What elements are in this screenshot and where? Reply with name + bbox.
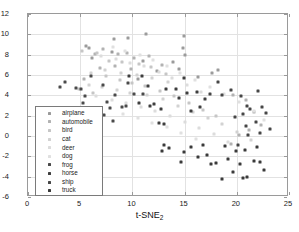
data-point-cat [129, 92, 132, 95]
legend-label: cat [62, 136, 70, 142]
data-point-deer [183, 120, 186, 123]
x-axis-title-subscript: 2 [160, 214, 164, 221]
legend-item-airplane[interactable]: airplane [36, 109, 102, 118]
data-point-truck [262, 168, 265, 171]
data-point-airplane [112, 38, 115, 41]
data-point-ship [217, 81, 220, 84]
data-point-truck [244, 149, 247, 152]
y-axis-tick [284, 34, 287, 35]
data-point-horse [157, 121, 160, 124]
legend-marker-icon [48, 163, 51, 166]
y-tick-label: -6 [0, 192, 9, 201]
data-point-dog [152, 58, 155, 61]
y-axis-tick [28, 197, 31, 198]
gridline-vertical [237, 14, 238, 195]
data-point-bird [137, 62, 140, 65]
gridline-horizontal [28, 34, 287, 35]
data-point-truck [197, 156, 200, 159]
legend-item-dog[interactable]: dog [36, 152, 102, 161]
y-tick-label: 8 [0, 49, 9, 58]
x-axis-title: t-SNE2 [0, 210, 299, 221]
y-tick-label: 12 [0, 9, 9, 18]
data-point-ship [236, 144, 239, 147]
data-point-automobile [237, 133, 240, 136]
data-point-frog [127, 82, 130, 85]
data-point-automobile [148, 54, 151, 57]
data-point-horse [140, 75, 143, 78]
data-point-deer [94, 95, 97, 98]
data-point-deer [212, 132, 215, 135]
legend-label: airplane [62, 110, 84, 116]
data-point-cat [166, 81, 169, 84]
y-axis-tick [284, 116, 287, 117]
y-tick-label: -4 [0, 171, 9, 180]
data-point-truck [238, 163, 241, 166]
gridline-horizontal [28, 55, 287, 56]
legend-item-ship[interactable]: ship [36, 178, 102, 187]
data-point-horse [128, 75, 131, 78]
data-point-ship [254, 120, 257, 123]
data-point-cat [87, 84, 90, 87]
data-point-ship [229, 89, 232, 92]
data-point-frog [75, 87, 78, 90]
data-point-airplane [197, 76, 200, 79]
data-point-airplane [144, 33, 147, 36]
legend-item-truck[interactable]: truck [36, 186, 102, 195]
data-point-ship [245, 124, 248, 127]
y-axis-tick [28, 95, 31, 96]
y-axis-tick [284, 95, 287, 96]
legend-item-automobile[interactable]: automobile [36, 118, 102, 127]
data-point-bird [164, 72, 167, 75]
data-point-cat [146, 94, 149, 97]
legend-item-bird[interactable]: bird [36, 126, 102, 135]
data-point-ship [233, 115, 236, 118]
y-tick-label: 6 [0, 70, 9, 79]
data-point-automobile [248, 128, 251, 131]
y-axis-tick [284, 136, 287, 137]
data-point-deer [185, 84, 188, 87]
data-point-frog [102, 84, 105, 87]
y-axis-tick [284, 156, 287, 157]
legend-label: truck [62, 187, 76, 193]
data-point-bird [81, 49, 84, 52]
data-point-frog [113, 94, 116, 97]
data-point-ship [242, 112, 245, 115]
data-point-truck [242, 176, 245, 179]
data-point-ship [208, 93, 211, 96]
data-point-truck [231, 170, 234, 173]
data-point-dog [252, 109, 255, 112]
data-point-ship [269, 127, 272, 130]
x-axis-tick [289, 192, 290, 195]
data-point-truck [209, 163, 212, 166]
data-point-frog [125, 104, 128, 107]
legend-item-deer[interactable]: deer [36, 143, 102, 152]
data-point-automobile [245, 99, 248, 102]
data-point-airplane [90, 56, 93, 59]
data-point-dog [136, 116, 139, 119]
legend-item-cat[interactable]: cat [36, 135, 102, 144]
x-axis-tick [237, 14, 238, 17]
data-point-frog [141, 93, 144, 96]
data-point-automobile [160, 63, 163, 66]
data-point-frog [80, 88, 83, 91]
data-point-cat [177, 104, 180, 107]
data-point-airplane [183, 53, 186, 56]
x-axis-tick [132, 192, 133, 195]
data-point-ship [260, 105, 263, 108]
data-point-truck [224, 145, 227, 148]
data-point-automobile [133, 56, 136, 59]
data-point-deer [114, 57, 117, 60]
data-point-cat [250, 139, 253, 142]
data-point-airplane [87, 46, 90, 49]
legend-item-frog[interactable]: frog [36, 161, 102, 170]
data-point-deer [171, 77, 174, 80]
data-point-dog [195, 138, 198, 141]
legend-item-horse[interactable]: horse [36, 169, 102, 178]
data-point-ship [249, 107, 252, 110]
x-tick-label: 15 [169, 199, 199, 208]
data-point-cat [151, 77, 154, 80]
data-point-automobile [102, 47, 105, 50]
data-point-cat [235, 130, 238, 133]
legend-box[interactable]: airplaneautomobilebirdcatdeerdogfroghors… [35, 106, 103, 196]
data-point-ship [265, 111, 268, 114]
